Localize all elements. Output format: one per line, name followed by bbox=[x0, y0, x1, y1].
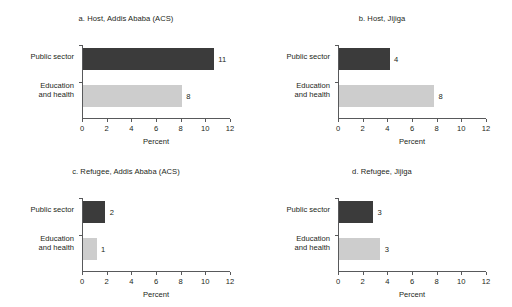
panel-a-y-tick-mid bbox=[79, 82, 82, 83]
panel-b: b. Host, Jijiga Public sector Education … bbox=[256, 0, 512, 153]
panel-b-x-tick-0 bbox=[338, 119, 339, 122]
panel-d-y-tick-mid bbox=[335, 235, 338, 236]
panel-d-bar-education-and-health bbox=[339, 238, 380, 260]
panel-c: c. Refugee, Addis Ababa (ACS) Public sec… bbox=[0, 153, 256, 306]
panel-a-y-tick-top bbox=[79, 45, 82, 46]
panel-c-category-labels: Public sector Education and health bbox=[0, 198, 78, 272]
panel-c-x-label-12: 12 bbox=[226, 277, 234, 286]
panel-c-x-label-0: 0 bbox=[80, 277, 84, 286]
panel-c-x-tick-8 bbox=[181, 272, 182, 275]
panel-a-value-education-and-health: 8 bbox=[186, 93, 190, 101]
panel-b-x-label-8: 8 bbox=[435, 124, 439, 133]
panel-c-x-tick-10 bbox=[205, 272, 206, 275]
panel-b-x-tick-2 bbox=[363, 119, 364, 122]
panel-c-x-tick-2 bbox=[107, 272, 108, 275]
panel-c-x-label-2: 2 bbox=[105, 277, 109, 286]
panel-b-value-public-sector: 4 bbox=[394, 56, 398, 64]
panel-a-bar-public-sector bbox=[83, 48, 214, 70]
panel-a-x-label-6: 6 bbox=[154, 124, 158, 133]
panel-b-bar-public-sector bbox=[339, 48, 390, 70]
panel-d-x-tick-0 bbox=[338, 272, 339, 275]
panel-d-x-label-4: 4 bbox=[385, 277, 389, 286]
panel-c-value-public-sector: 2 bbox=[110, 209, 114, 217]
panel-d-category-education-line2: and health bbox=[256, 243, 330, 253]
panel-c-category-public-sector: Public sector bbox=[0, 205, 74, 215]
panel-d-x-label-2: 2 bbox=[361, 277, 365, 286]
panel-b-x-label-0: 0 bbox=[336, 124, 340, 133]
panel-a-x-tick-12 bbox=[230, 119, 231, 122]
panel-d-x-tick-6 bbox=[412, 272, 413, 275]
panel-b-x-axis-title: Percent bbox=[338, 137, 486, 146]
panel-d-x-tick-8 bbox=[437, 272, 438, 275]
panel-b-y-tick-mid bbox=[335, 82, 338, 83]
panel-d-bar-public-sector bbox=[339, 201, 373, 223]
panel-a-x-label-2: 2 bbox=[105, 124, 109, 133]
panel-a-x-label-8: 8 bbox=[179, 124, 183, 133]
panel-a-x-tick-8 bbox=[181, 119, 182, 122]
panel-a-x-tick-10 bbox=[205, 119, 206, 122]
panel-c-y-tick-mid bbox=[79, 235, 82, 236]
panel-c-x-label-10: 10 bbox=[201, 277, 209, 286]
panel-d-x-label-6: 6 bbox=[410, 277, 414, 286]
panel-d-x-tick-12 bbox=[486, 272, 487, 275]
panel-b-x-tick-6 bbox=[412, 119, 413, 122]
panel-b-x-tick-4 bbox=[387, 119, 388, 122]
panel-c-plot-area: 2 1 0 2 4 6 8 10 12 Percent bbox=[82, 198, 230, 272]
panel-b-bar-education-and-health bbox=[339, 85, 434, 107]
panel-b-plot-area: 4 8 0 2 4 6 8 10 12 Percent bbox=[338, 45, 486, 119]
panel-d: d. Refugee, Jijiga Public sector Educati… bbox=[256, 153, 512, 306]
panel-d-value-education-and-health: 3 bbox=[385, 246, 389, 254]
panel-b-title: b. Host, Jijiga bbox=[256, 14, 508, 23]
panel-a-category-public-sector: Public sector bbox=[0, 52, 74, 62]
panel-a-plot-area: 11 8 0 2 4 6 8 10 12 Percent bbox=[82, 45, 230, 119]
figure-four-panel-bar-chart: a. Host, Addis Ababa (ACS) Public sector… bbox=[0, 0, 512, 307]
panel-a-title: a. Host, Addis Ababa (ACS) bbox=[0, 14, 252, 23]
panel-a-x-axis-title: Percent bbox=[82, 137, 230, 146]
panel-b-x-tick-10 bbox=[461, 119, 462, 122]
panel-c-category-education-line2: and health bbox=[0, 243, 74, 253]
panel-c-x-label-4: 4 bbox=[129, 277, 133, 286]
panel-a-x-tick-0 bbox=[82, 119, 83, 122]
panel-d-x-label-0: 0 bbox=[336, 277, 340, 286]
panel-b-x-label-2: 2 bbox=[361, 124, 365, 133]
panel-d-x-label-10: 10 bbox=[457, 277, 465, 286]
panel-c-value-education-and-health: 1 bbox=[101, 246, 105, 254]
panel-d-x-label-12: 12 bbox=[482, 277, 490, 286]
panel-a-x-tick-4 bbox=[131, 119, 132, 122]
panel-c-x-label-8: 8 bbox=[179, 277, 183, 286]
panel-c-title: c. Refugee, Addis Ababa (ACS) bbox=[0, 167, 252, 176]
panel-c-bar-education-and-health bbox=[83, 238, 97, 260]
panel-a-category-education-line2: and health bbox=[0, 90, 74, 100]
panel-b-y-tick-top bbox=[335, 45, 338, 46]
panel-d-value-public-sector: 3 bbox=[377, 209, 381, 217]
panel-c-x-tick-0 bbox=[82, 272, 83, 275]
panel-c-x-axis-title: Percent bbox=[82, 290, 230, 299]
panel-d-x-label-8: 8 bbox=[435, 277, 439, 286]
panel-a-value-public-sector: 11 bbox=[218, 56, 226, 64]
panel-b-category-public-sector: Public sector bbox=[256, 52, 330, 62]
panel-b-category-labels: Public sector Education and health bbox=[256, 45, 334, 119]
panel-b-x-tick-8 bbox=[437, 119, 438, 122]
panel-a-category-labels: Public sector Education and health bbox=[0, 45, 78, 119]
panel-c-x-tick-6 bbox=[156, 272, 157, 275]
panel-a-x-label-4: 4 bbox=[129, 124, 133, 133]
panel-b-x-label-10: 10 bbox=[457, 124, 465, 133]
panel-a-x-label-0: 0 bbox=[80, 124, 84, 133]
panel-b-x-label-12: 12 bbox=[482, 124, 490, 133]
panel-c-bar-public-sector bbox=[83, 201, 105, 223]
panel-d-y-tick-top bbox=[335, 198, 338, 199]
panel-a-x-label-10: 10 bbox=[201, 124, 209, 133]
panel-b-x-label-4: 4 bbox=[385, 124, 389, 133]
panel-d-x-tick-4 bbox=[387, 272, 388, 275]
panel-a-x-tick-2 bbox=[107, 119, 108, 122]
panel-b-x-tick-12 bbox=[486, 119, 487, 122]
panel-d-category-public-sector: Public sector bbox=[256, 205, 330, 215]
panel-a-bar-education-and-health bbox=[83, 85, 182, 107]
panel-d-title: d. Refugee, Jijiga bbox=[256, 167, 508, 176]
panel-d-x-axis-title: Percent bbox=[338, 290, 486, 299]
panel-d-plot-area: 3 3 0 2 4 6 8 10 12 Percent bbox=[338, 198, 486, 272]
panel-c-x-tick-12 bbox=[230, 272, 231, 275]
panel-b-value-education-and-health: 8 bbox=[438, 93, 442, 101]
panel-d-x-tick-2 bbox=[363, 272, 364, 275]
panel-d-x-tick-10 bbox=[461, 272, 462, 275]
